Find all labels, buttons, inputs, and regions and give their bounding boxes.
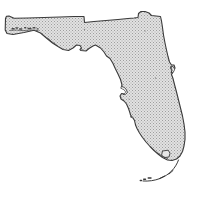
barrier-island-mark [37,28,39,29]
speck [128,98,129,99]
cape-canaveral [170,66,174,73]
key-island-mark [148,177,152,179]
barrier-island-mark [12,28,15,30]
speck [155,77,156,78]
barrier-island-mark [28,28,32,30]
upper-keys-island-mark [169,171,173,175]
florida-map-svg [0,0,199,207]
florida-keys [140,160,179,181]
key-west-mark [140,180,143,182]
mainland-fill [5,12,185,161]
key-island-mark [143,178,146,180]
barrier-island-mark [33,27,36,29]
mainland-landmass [5,12,185,161]
map-canvas: Florida State Outline Map [0,0,199,207]
speck [144,30,145,31]
sanibel-island-mark [127,121,130,122]
speck [84,29,85,30]
barrier-island-mark [16,27,19,29]
barrier-island-mark [19,28,22,30]
barrier-island-mark [24,27,26,28]
